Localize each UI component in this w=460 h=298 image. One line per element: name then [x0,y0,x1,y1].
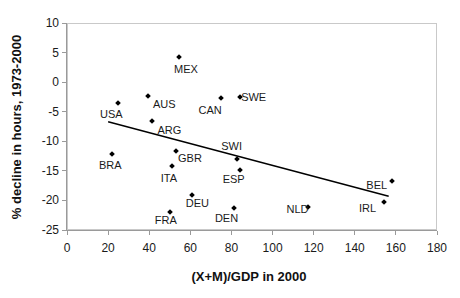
scatter-chart: % decline in hours, 1973-2000 (X+M)/GDP … [0,0,460,298]
x-tick-mark [231,231,232,235]
point-label-gbr: GBR [170,151,210,165]
y-tick-label: -20 [28,193,59,207]
x-tick-label: 40 [134,241,164,255]
x-tick-mark [437,231,438,235]
point-label-bel: BEL [357,178,397,192]
point-label-swi: SWI [212,139,252,153]
point-label-bra: BRA [90,158,130,172]
point-label-aus: AUS [144,97,184,111]
point-label-can: CAN [190,103,230,117]
y-tick-label: 0 [28,75,59,89]
point-label-ita: ITA [149,171,189,185]
x-tick-mark [354,231,355,235]
y-tick-mark [62,23,66,24]
x-tick-label: 160 [381,241,411,255]
y-tick-mark [62,82,66,83]
point-label-mex: MEX [166,62,206,76]
y-tick-mark [62,141,66,142]
x-tick-mark [190,231,191,235]
point-label-swe: SWE [234,90,274,104]
plot-area [67,23,437,230]
x-tick-mark [67,231,68,235]
point-label-irl: IRL [348,201,388,215]
point-label-nld: NLD [278,202,318,216]
x-tick-label: 60 [175,241,205,255]
y-tick-label: 5 [28,46,59,60]
x-axis-title: (X+M)/GDP in 2000 [192,269,307,284]
y-tick-mark [62,52,66,53]
x-axis-line [66,230,437,231]
y-tick-label: -5 [28,105,59,119]
x-tick-label: 100 [258,241,288,255]
point-label-deu: DEU [177,196,217,210]
y-tick-mark [62,230,66,231]
point-label-arg: ARG [149,123,189,137]
x-tick-mark [149,231,150,235]
point-label-usa: USA [91,107,131,121]
point-label-den: DEN [207,211,247,225]
x-tick-mark [272,231,273,235]
y-axis-line [66,23,67,231]
x-tick-mark [313,231,314,235]
x-tick-label: 180 [422,241,452,255]
y-tick-mark [62,200,66,201]
x-tick-label: 140 [340,241,370,255]
y-tick-mark [62,170,66,171]
y-tick-label: -10 [28,134,59,148]
x-tick-mark [108,231,109,235]
x-tick-label: 0 [52,241,82,255]
y-tick-label: -15 [28,164,59,178]
point-label-fra: FRA [146,213,186,227]
y-tick-mark [62,111,66,112]
y-tick-label: 10 [28,16,59,30]
point-label-esp: ESP [214,172,254,186]
x-tick-label: 120 [299,241,329,255]
x-tick-mark [395,231,396,235]
x-tick-label: 80 [216,241,246,255]
y-axis-title: % decline in hours, 1973-2000 [9,35,24,219]
y-tick-label: -25 [28,223,59,237]
x-tick-label: 20 [93,241,123,255]
